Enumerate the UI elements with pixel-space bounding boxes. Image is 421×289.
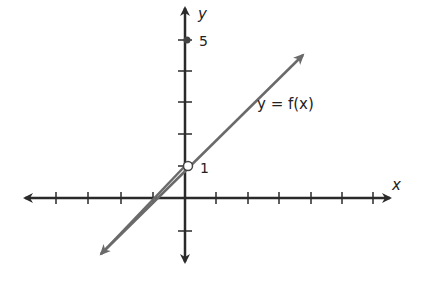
filled-point-0-5: [184, 37, 191, 44]
function-label: y = f(x): [257, 95, 314, 113]
y-axis: y 5 1: [178, 5, 209, 262]
y-tick-label-5: 5: [199, 33, 208, 49]
y-tick-label-1: 1: [200, 160, 209, 176]
function-line: [101, 55, 303, 254]
function-graph: x y 5 1 y = f(x): [0, 0, 421, 289]
y-axis-label: y: [197, 5, 208, 23]
open-point-0-1: [184, 162, 193, 171]
x-axis: x: [25, 176, 401, 204]
x-axis-label: x: [391, 176, 401, 194]
